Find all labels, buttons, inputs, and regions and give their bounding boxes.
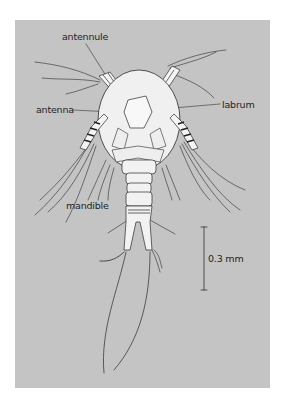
label-antennule: antennule	[62, 32, 108, 42]
label-labrum: labrum	[222, 100, 254, 110]
caudal-seta-right	[114, 252, 150, 370]
mandible-leader-line	[88, 160, 106, 200]
segment-1	[122, 160, 156, 174]
scale-bar	[201, 227, 207, 290]
copepod-illustration	[0, 0, 283, 397]
caudal-seta-left	[103, 252, 126, 373]
segment-4	[126, 192, 152, 206]
scale-bar-label: 0.3 mm	[208, 254, 243, 264]
label-mandible: mandible	[66, 201, 109, 211]
label-antenna: antenna	[36, 105, 74, 115]
segment-3	[127, 183, 151, 193]
segment-2	[126, 173, 152, 184]
abdomen-furca	[124, 206, 152, 250]
